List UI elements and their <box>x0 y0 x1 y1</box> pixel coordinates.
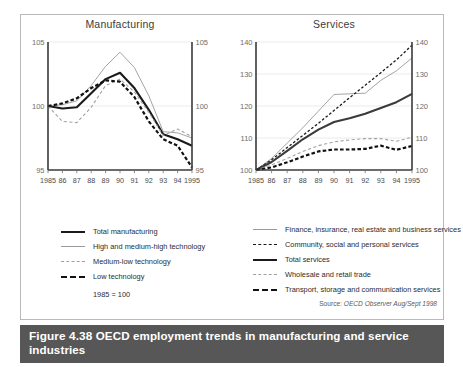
chart-svg-manufacturing: 9595100100105105198586878889909192939419… <box>22 36 218 208</box>
legend-swatch-line-icon <box>60 257 86 267</box>
source-note: Source: OECD Observer Aug/Sept 1998 <box>319 300 437 307</box>
svg-text:93: 93 <box>377 176 385 185</box>
svg-text:94: 94 <box>174 176 182 185</box>
svg-text:105: 105 <box>196 38 209 47</box>
plot-area-manufacturing: 9595100100105105198586878889909192939419… <box>22 36 218 186</box>
svg-text:120: 120 <box>240 102 253 111</box>
legend-label: Low technology <box>93 273 144 280</box>
svg-text:88: 88 <box>87 176 95 185</box>
svg-text:100: 100 <box>416 166 429 175</box>
legend-services: Finance, insurance, real estate and busi… <box>252 222 452 297</box>
svg-text:90: 90 <box>330 176 338 185</box>
svg-text:140: 140 <box>416 38 429 47</box>
svg-text:130: 130 <box>416 70 429 79</box>
svg-text:92: 92 <box>145 176 153 185</box>
svg-text:91: 91 <box>130 176 138 185</box>
figure-caption: Figure 4.38 OECD employment trends in ma… <box>29 329 434 356</box>
svg-text:110: 110 <box>416 134 428 143</box>
legend-item: Transport, storage and communication ser… <box>252 282 452 297</box>
svg-text:140: 140 <box>240 38 253 47</box>
legend-label: High and medium-high technology <box>93 243 205 250</box>
legend-swatch-line-icon <box>252 255 278 265</box>
chart-panel-manufacturing: Manufacturing 95951001001051051985868788… <box>22 18 218 214</box>
svg-text:120: 120 <box>416 102 429 111</box>
legend-item: Total services <box>252 252 452 267</box>
svg-text:87: 87 <box>283 176 291 185</box>
legend-label: Total manufacturing <box>93 228 158 235</box>
legend-swatch-line-icon <box>252 285 278 295</box>
svg-text:95: 95 <box>196 166 204 175</box>
svg-text:89: 89 <box>314 176 322 185</box>
svg-text:1985: 1985 <box>248 176 264 185</box>
svg-text:130: 130 <box>240 70 253 79</box>
legend-swatch-line-icon <box>60 272 86 282</box>
chart-svg-services: 1001001101101201201301301401401985868788… <box>228 36 440 208</box>
legend-item: Low technology <box>60 269 230 284</box>
svg-text:89: 89 <box>102 176 110 185</box>
svg-text:90: 90 <box>116 176 124 185</box>
source-value: OECD Observer Aug/Sept 1998 <box>344 300 437 307</box>
legend-label: Community, social and personal services <box>285 241 419 248</box>
legend-swatch-line-icon <box>252 240 278 250</box>
legend-item: Total manufacturing <box>60 224 230 239</box>
base-year-note: 1985 = 100 <box>93 291 230 298</box>
legend-label: Total services <box>285 256 330 263</box>
svg-text:1995: 1995 <box>404 176 420 185</box>
svg-text:100: 100 <box>32 102 45 111</box>
svg-text:86: 86 <box>268 176 276 185</box>
svg-text:88: 88 <box>299 176 307 185</box>
legend-label: Medium-low technology <box>93 258 171 265</box>
svg-text:95: 95 <box>36 166 44 175</box>
legend-item: High and medium-high technology <box>60 239 230 254</box>
chart-title-services: Services <box>228 18 440 30</box>
svg-text:105: 105 <box>32 38 45 47</box>
source-label: Source: <box>319 300 342 307</box>
legend-label: Finance, insurance, real estate and busi… <box>285 226 461 233</box>
legend-swatch-line-icon <box>252 225 278 235</box>
svg-text:87: 87 <box>73 176 81 185</box>
svg-text:100: 100 <box>240 166 253 175</box>
svg-text:1995: 1995 <box>184 176 200 185</box>
legend-item: Wholesale and retail trade <box>252 267 452 282</box>
svg-text:93: 93 <box>159 176 167 185</box>
legend-item: Finance, insurance, real estate and busi… <box>252 222 452 237</box>
svg-text:100: 100 <box>196 102 209 111</box>
chart-title-manufacturing: Manufacturing <box>22 18 218 30</box>
plot-area-services: 1001001101101201201301301401401985868788… <box>228 36 440 186</box>
legend-item: Medium-low technology <box>60 254 230 269</box>
svg-text:86: 86 <box>58 176 66 185</box>
legend-swatch-line-icon <box>60 227 86 237</box>
svg-text:1985: 1985 <box>40 176 56 185</box>
figure-caption-bar: Figure 4.38 OECD employment trends in ma… <box>20 325 444 363</box>
legend-manufacturing: Total manufacturing High and medium-high… <box>60 224 230 298</box>
svg-text:94: 94 <box>392 176 400 185</box>
legend-swatch-line-icon <box>252 270 278 280</box>
legend-item: Community, social and personal services <box>252 237 452 252</box>
svg-text:91: 91 <box>346 176 354 185</box>
svg-text:110: 110 <box>241 134 253 143</box>
svg-text:92: 92 <box>361 176 369 185</box>
legend-label: Wholesale and retail trade <box>285 271 371 278</box>
legend-label: Transport, storage and communication ser… <box>285 286 440 293</box>
figure-page: Manufacturing 95951001001051051985868788… <box>0 0 463 367</box>
figure-number: Figure 4.38 <box>29 329 92 343</box>
chart-panel-services: Services 1001001101101201201301301401401… <box>228 18 440 214</box>
legend-swatch-line-icon <box>60 242 86 252</box>
